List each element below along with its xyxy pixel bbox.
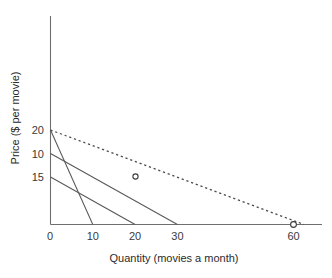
x-tick-label-0: 0 <box>47 230 53 242</box>
chart-plot-area: 20 15 10 0 10 20 30 60 Quantity (movies … <box>0 0 332 278</box>
x-tick-label-30: 30 <box>171 230 183 242</box>
y-axis-title: Price ($ per movie) <box>9 72 21 165</box>
demand-curve-chart: 20 15 10 0 10 20 30 60 Quantity (movies … <box>0 0 332 278</box>
x-axis-title: Quantity (movies a month) <box>110 252 239 264</box>
y-tick-label-20: 20 <box>32 124 44 136</box>
individual-demand-curve-3 <box>51 154 178 225</box>
x-tick-label-60: 60 <box>287 230 299 242</box>
x-tick-label-20: 20 <box>129 230 141 242</box>
market-demand-curve <box>51 130 305 225</box>
y-tick-label-10: 10 <box>32 148 44 160</box>
x-tick-label-10: 10 <box>87 230 99 242</box>
market-demand-endpoint-marker <box>291 222 297 228</box>
individual-demand-curve-1 <box>51 130 93 225</box>
market-demand-marker-point <box>133 174 138 179</box>
individual-demand-curve-2 <box>51 177 136 225</box>
y-tick-label-15: 15 <box>32 171 44 183</box>
